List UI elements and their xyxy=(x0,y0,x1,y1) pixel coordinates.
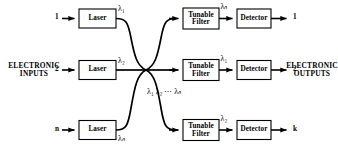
electronic-inputs-line2: INPUTS xyxy=(20,69,48,78)
tunable-filter-label-row-3: Tunable Filter xyxy=(183,123,219,138)
laser-label-row-2: Laser xyxy=(79,66,116,74)
filter-wavelength-row-1: λₙ xyxy=(221,3,228,11)
filter-wavelength-row-2: λ₁ xyxy=(221,55,228,63)
laser-wavelength-row-3: λₙ xyxy=(118,135,125,143)
input-number-row-2: 2 xyxy=(55,66,59,74)
electronic-inputs-label: ELECTRONIC INPUTS xyxy=(6,62,62,78)
network-diagram xyxy=(0,0,338,158)
tunable-filter-label-row-2: Tunable Filter xyxy=(183,63,219,78)
laser-wavelength-row-2: λ₂ xyxy=(118,57,125,65)
laser-wavelength-row-1: λ₁ xyxy=(118,5,125,13)
detector-label-row-2: Detector xyxy=(237,66,271,74)
detector-label-row-1: Detector xyxy=(237,15,271,23)
tunable-filter-label-row-1: Tunable Filter xyxy=(183,12,219,27)
filter-line2-row-1: Filter xyxy=(192,18,210,26)
coupler-wavelengths-label: λ₁ λ₂ ⋯ λₙ xyxy=(147,88,181,96)
fiber-in-row-3 xyxy=(116,70,146,130)
output-number-row-2: 2 xyxy=(293,66,297,74)
output-number-row-1: 1 xyxy=(293,14,297,22)
input-number-row-3: n xyxy=(55,126,59,134)
laser-label-row-1: Laser xyxy=(79,15,116,23)
fiber-out-row-1 xyxy=(146,19,176,71)
laser-label-row-3: Laser xyxy=(79,126,116,134)
filter-wavelength-row-3: λ₂ xyxy=(221,115,228,123)
filter-line2-row-3: Filter xyxy=(192,130,210,138)
output-number-row-3: k xyxy=(293,126,297,134)
fiber-out-row-3 xyxy=(146,70,176,130)
detector-label-row-3: Detector xyxy=(237,126,271,134)
electronic-outputs-line2: OUTPUTS xyxy=(294,69,330,78)
filter-line2-row-2: Filter xyxy=(192,70,210,78)
input-number-row-1: 1 xyxy=(55,14,59,22)
